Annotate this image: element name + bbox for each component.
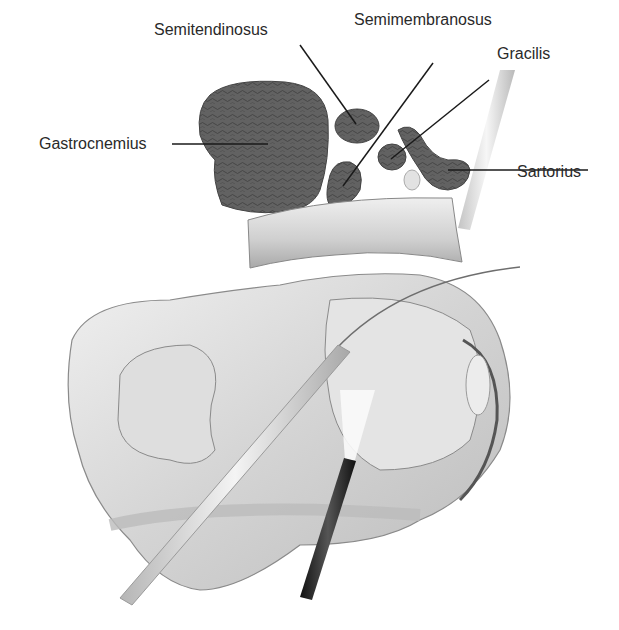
- capsule-bulge: [466, 355, 490, 415]
- anatomical-illustration: Semitendinosus Semimembranosus Gracilis …: [0, 0, 619, 630]
- label-semitendinosus: Semitendinosus: [154, 22, 268, 38]
- label-sartorius: Sartorius: [517, 164, 581, 180]
- medial-condyle: [118, 345, 216, 463]
- semitendinosus-muscle: [335, 109, 379, 143]
- label-gracilis: Gracilis: [497, 46, 550, 62]
- knee-cross-section-drawing: [0, 0, 619, 630]
- nerve-structure: [404, 170, 420, 190]
- retractor-rod: [458, 70, 515, 230]
- label-gastrocnemius: Gastrocnemius: [39, 136, 147, 152]
- label-semimembranosus: Semimembranosus: [354, 12, 492, 28]
- gastrocnemius-muscle: [199, 81, 328, 212]
- gracilis-muscle: [378, 144, 406, 170]
